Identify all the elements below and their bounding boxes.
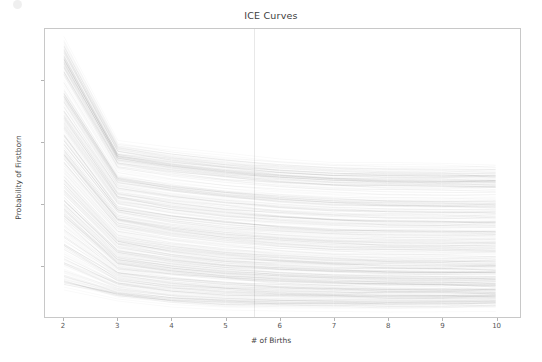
x-tick-label: 2 — [51, 322, 75, 330]
ice-curve — [64, 51, 496, 173]
ice-curve — [64, 60, 496, 181]
ice-curve — [64, 36, 496, 165]
x-tick-label: 6 — [268, 322, 292, 330]
ice-curve — [64, 59, 496, 182]
ice-curve — [64, 59, 496, 180]
x-tick-mark — [442, 318, 443, 321]
x-tick-mark — [171, 318, 172, 321]
chart-title: ICE Curves — [0, 10, 542, 21]
ice-curve — [64, 56, 496, 181]
ice-curve — [64, 59, 496, 180]
x-tick-label: 7 — [322, 322, 346, 330]
x-tick-mark — [334, 318, 335, 321]
x-tick-mark — [497, 318, 498, 321]
x-tick-label: 9 — [430, 322, 454, 330]
y-axis-label: Probability of Firstborn — [14, 98, 23, 258]
ice-curve — [64, 51, 496, 173]
x-tick-mark — [117, 318, 118, 321]
ice-curves-series — [45, 29, 520, 317]
ice-curve — [64, 64, 496, 182]
x-tick-mark — [388, 318, 389, 321]
figure-canvas: ICE Curves Probability of Firstborn 0.30… — [0, 0, 542, 362]
x-tick-label: 8 — [376, 322, 400, 330]
ice-curve — [64, 49, 496, 176]
plot-area — [44, 28, 521, 318]
x-tick-label: 5 — [214, 322, 238, 330]
ice-curve — [64, 64, 496, 182]
x-tick-mark — [280, 318, 281, 321]
ice-curve — [64, 58, 496, 182]
x-tick-label: 10 — [485, 322, 509, 330]
x-tick-mark — [63, 318, 64, 321]
ice-curve — [64, 47, 496, 174]
x-tick-mark — [226, 318, 227, 321]
x-axis-label: # of Births — [0, 336, 542, 345]
x-tick-label: 4 — [159, 322, 183, 330]
corner-artifact — [13, 0, 22, 9]
x-tick-label: 3 — [105, 322, 129, 330]
